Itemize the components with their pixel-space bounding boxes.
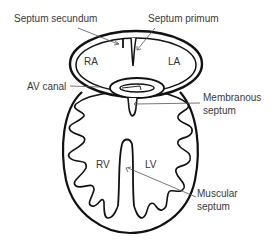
label-membranous-septum-line1: Membranous bbox=[203, 91, 261, 104]
label-lv: LV bbox=[145, 158, 157, 171]
label-septum-primum: Septum primum bbox=[148, 12, 219, 25]
rv-trabeculated-wall bbox=[69, 92, 118, 218]
arrow-muscular-septum bbox=[126, 167, 131, 172]
leader-muscular-septum bbox=[128, 168, 196, 197]
label-ra: RA bbox=[84, 55, 98, 68]
leader-membranous-septum bbox=[135, 103, 200, 104]
label-av-canal: AV canal bbox=[27, 80, 66, 93]
label-septum-secundum: Septum secundum bbox=[14, 12, 97, 25]
label-membranous-septum-line2: septum bbox=[203, 104, 236, 117]
label-muscular-septum-line1: Muscular bbox=[197, 187, 238, 200]
heart-drawing bbox=[0, 0, 273, 242]
label-la: LA bbox=[168, 55, 180, 68]
label-muscular-septum-line2: septum bbox=[197, 200, 230, 213]
membranous-septum bbox=[128, 98, 137, 116]
muscular-septum bbox=[118, 140, 134, 207]
label-rv: RV bbox=[96, 158, 110, 171]
heart-septation-diagram: Septum secundum Septum primum RA LA AV c… bbox=[0, 0, 273, 242]
lv-trabeculated-wall bbox=[134, 92, 192, 218]
